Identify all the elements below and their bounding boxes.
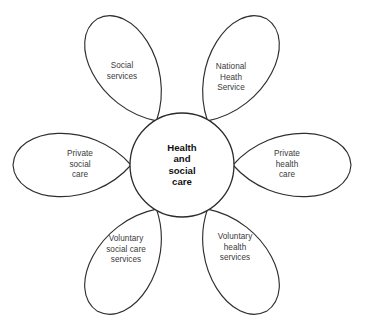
petal-voluntary-health-services [203,209,280,314]
petal-voluntary-social-care-services [85,209,162,314]
petal-diagram: Health and social care Social servicesNa… [0,0,365,317]
petal-social-services [85,16,162,121]
flower-svg [0,0,365,317]
petal-national-heath-service [203,16,280,121]
petal-private-health-care [233,133,351,196]
petal-private-social-care [13,133,131,196]
core-circle [130,113,234,217]
